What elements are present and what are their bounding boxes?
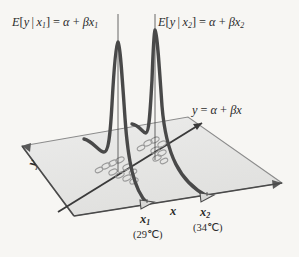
expectation-label-x2-text: E (158, 15, 166, 29)
regression-line-label-y: y (192, 103, 197, 117)
regression-conditional-distribution-figure: E[y | x1] = α + βx1 E[y | x2] = α + βx2 … (0, 0, 299, 257)
expectation-label-x2-plus: + (219, 15, 226, 29)
tick-label-x1: x1 (140, 213, 150, 227)
expectation-label-x1-y: y (24, 15, 29, 29)
regression-line-label: y = α + βx (192, 104, 242, 116)
expectation-label-x1-bar: | (32, 15, 34, 29)
expectation-label-x2-y: y (170, 15, 175, 29)
x-axis-label: x (170, 205, 176, 218)
expectation-label-x2-bar: | (178, 15, 180, 29)
base-plane (22, 117, 282, 216)
expectation-label-x1-text: E (12, 15, 20, 29)
regression-line-label-alpha: α (211, 103, 217, 117)
regression-line-label-plus: + (220, 103, 227, 117)
expectation-label-x2-alpha: α (209, 15, 215, 29)
tick-value-x1: (29℃) (133, 230, 163, 241)
expectation-label-x2: E[y | x2] = α + βx2 (158, 16, 244, 30)
expectation-label-x1-close: ] (46, 15, 50, 29)
expectation-label-x1-subrhs: 1 (94, 21, 98, 30)
tick-value-x2: (34℃) (193, 223, 223, 234)
expectation-label-x1-equals: = (53, 15, 60, 29)
tick-label-x1-sub: 1 (146, 218, 150, 227)
expectation-label-x1-plus: + (73, 15, 80, 29)
tick-label-x2-sub: 2 (206, 211, 210, 220)
regression-line-label-equals: = (201, 103, 208, 117)
expectation-label-x2-close: ] (192, 15, 196, 29)
tick-label-x2: x2 (200, 206, 210, 220)
regression-line-label-x: x (236, 103, 241, 117)
expectation-label-x2-subrhs: 2 (240, 21, 244, 30)
expectation-label-x1: E[y | x1] = α + βx1 (12, 16, 98, 30)
expectation-label-x1-alpha: α (63, 15, 69, 29)
expectation-label-x2-equals: = (199, 15, 206, 29)
